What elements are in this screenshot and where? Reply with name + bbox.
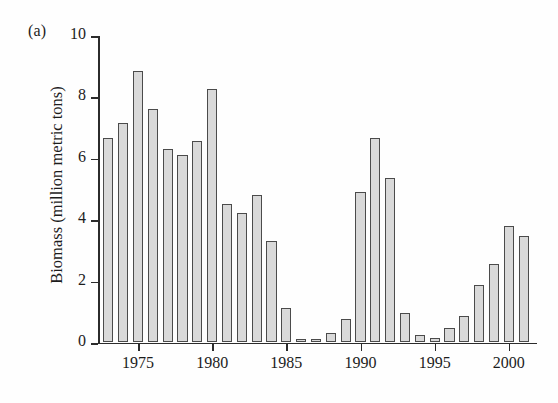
x-axis-tick <box>435 343 437 351</box>
biomass-bar-chart-figure: (a) Biomass (million metric tons) 024681… <box>0 0 558 403</box>
bar <box>504 226 514 343</box>
bar <box>296 339 306 343</box>
y-axis-tick-label: 8 <box>78 86 86 104</box>
bar <box>237 213 247 342</box>
y-axis-tick-label: 0 <box>78 332 86 350</box>
bar <box>163 149 173 342</box>
bar <box>148 109 158 342</box>
bar <box>355 192 365 342</box>
bar <box>192 141 202 342</box>
y-axis-tick-label: 4 <box>78 209 86 227</box>
bar <box>133 71 143 343</box>
x-axis-tick <box>212 343 214 351</box>
bar <box>177 155 187 342</box>
bar <box>459 316 469 342</box>
bar <box>207 89 217 342</box>
bar <box>266 241 276 342</box>
bar <box>489 264 499 342</box>
bar <box>222 204 232 342</box>
y-axis-tick: 8 <box>91 97 98 99</box>
bar <box>118 123 128 343</box>
panel-label: (a) <box>28 22 46 40</box>
bar <box>103 138 113 342</box>
x-axis-tick <box>509 343 511 351</box>
x-axis-tick-label: 1995 <box>419 354 451 372</box>
bar <box>400 313 410 342</box>
bar <box>444 328 454 342</box>
bar <box>415 335 425 342</box>
bar <box>326 333 336 342</box>
x-axis-tick <box>361 343 363 351</box>
bar <box>252 195 262 342</box>
x-axis-tick-label: 1975 <box>122 354 154 372</box>
bar <box>519 236 529 342</box>
bar <box>474 285 484 342</box>
y-axis-tick-label: 6 <box>78 148 86 166</box>
y-axis-tick: 2 <box>91 282 98 284</box>
y-axis-tick: 6 <box>91 159 98 161</box>
bar <box>370 138 380 342</box>
bar <box>281 308 291 342</box>
x-axis-tick-label: 1980 <box>196 354 228 372</box>
x-axis-tick <box>286 343 288 351</box>
x-axis-tick-label: 1990 <box>345 354 377 372</box>
x-axis-tick-label: 2000 <box>493 354 525 372</box>
y-axis-tick: 4 <box>91 220 98 222</box>
bar <box>341 319 351 342</box>
bar <box>430 338 440 343</box>
x-axis-tick-label: 1985 <box>270 354 302 372</box>
y-axis-tick: 0 <box>91 343 98 345</box>
y-axis-tick-label: 2 <box>78 271 86 289</box>
plot-area: 0246810 197519801985199019952000 <box>98 36 537 343</box>
x-axis-line <box>98 343 537 345</box>
bar <box>311 339 321 342</box>
x-axis-tick <box>138 343 140 351</box>
y-axis-line <box>98 36 100 344</box>
y-axis-tick-label: 10 <box>70 25 86 43</box>
y-axis-tick: 10 <box>91 36 98 38</box>
bar <box>385 178 395 342</box>
y-axis-title: Biomass (million metric tons) <box>47 20 67 350</box>
